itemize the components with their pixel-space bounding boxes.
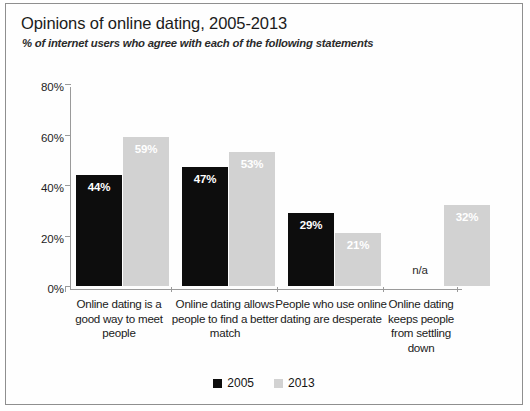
- bar-2013-2[interactable]: 53%: [229, 152, 275, 286]
- x-axis-category-label: Online dating is a good way to meet peop…: [63, 297, 175, 341]
- bar-value-label: 47%: [182, 173, 228, 185]
- bar-value-label: 59%: [123, 143, 169, 155]
- bar-value-label: 32%: [444, 211, 490, 223]
- legend-label: 2013: [288, 376, 315, 390]
- x-axis-tick-mark: [65, 287, 66, 292]
- legend-item-2013[interactable]: 2013: [274, 376, 315, 390]
- x-axis-tick-mark: [171, 287, 172, 292]
- bar-value-label: 44%: [76, 181, 122, 193]
- y-axis-tick-mark: [65, 135, 71, 136]
- legend-label: 2005: [227, 376, 254, 390]
- bar-value-label: 53%: [229, 158, 275, 170]
- x-axis-tick-mark: [383, 287, 384, 292]
- bar-value-label: 21%: [335, 239, 381, 251]
- bar-2005-2[interactable]: 47%: [182, 167, 228, 286]
- y-axis-tick-label: 0%: [24, 283, 64, 295]
- y-axis-tick-mark: [65, 84, 71, 85]
- scan-artifact: [0, 406, 530, 411]
- bar-2013-1[interactable]: 59%: [123, 137, 169, 286]
- y-axis-tick-mark: [65, 236, 71, 237]
- x-axis-category-label: People who use online dating are despera…: [275, 297, 387, 326]
- bar-2013-4[interactable]: 32%: [444, 205, 490, 286]
- bar-2013-3[interactable]: 21%: [335, 233, 381, 286]
- y-axis-tick-label: 60%: [24, 132, 64, 144]
- bar-2005-1[interactable]: 44%: [76, 175, 122, 286]
- bar-2005-3[interactable]: 29%: [288, 213, 334, 286]
- bar-value-label: 29%: [288, 219, 334, 231]
- x-axis-tick-mark: [457, 287, 458, 292]
- legend-item-2005[interactable]: 2005: [213, 376, 254, 390]
- legend-swatch-icon: [213, 379, 222, 388]
- y-axis-line: [70, 87, 71, 290]
- x-axis-category-label: Online dating keeps people from settling…: [381, 297, 461, 355]
- legend-swatch-icon: [274, 379, 283, 388]
- y-axis-tick-labels: 0%20%40%60%80%: [16, 4, 64, 411]
- y-axis-tick-mark: [65, 185, 71, 186]
- x-axis-category-label: Online dating allows people to find a be…: [169, 297, 281, 341]
- chart-subtitle: % of internet users who agree with each …: [22, 37, 373, 49]
- y-axis-tick-label: 80%: [24, 81, 64, 93]
- x-axis-line: [70, 289, 462, 290]
- bar-value-label-na: n/a: [397, 264, 443, 276]
- chart-frame: Opinions of online dating, 2005-2013 % o…: [5, 3, 523, 405]
- x-axis-tick-mark: [277, 287, 278, 292]
- y-axis-tick-label: 40%: [24, 182, 64, 194]
- y-axis-tick-label: 20%: [24, 233, 64, 245]
- chart-legend: 20052013: [6, 376, 522, 390]
